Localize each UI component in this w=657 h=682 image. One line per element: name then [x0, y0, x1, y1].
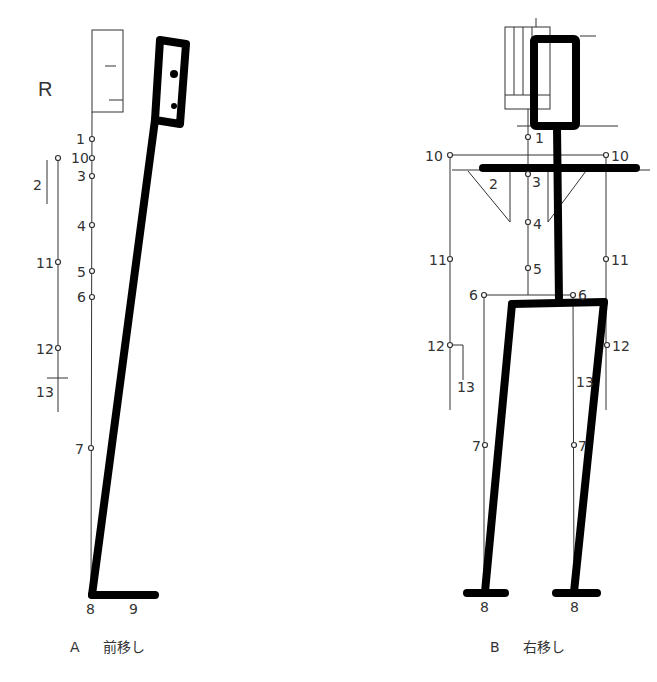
label-right-10: 10 — [611, 148, 629, 164]
point-3 — [526, 172, 531, 177]
label-2: 2 — [33, 177, 42, 193]
point-10 — [90, 156, 95, 161]
point-left-10 — [448, 153, 453, 158]
posture-diagram: R 1 10 3 4 5 6 7 8 9 — [0, 0, 657, 682]
label-left-8: 8 — [480, 599, 489, 615]
label-4: 4 — [533, 216, 542, 232]
figure-a: R 1 10 3 4 5 6 7 8 9 — [33, 30, 186, 655]
label-2: 2 — [489, 176, 498, 192]
point-right-11 — [604, 257, 609, 262]
plumb-line — [91, 112, 92, 595]
point-right-7 — [572, 443, 577, 448]
label-left-13: 13 — [457, 379, 475, 395]
caption-a-letter: A — [70, 639, 80, 655]
label-5: 5 — [77, 264, 86, 280]
label-left-10: 10 — [425, 148, 443, 164]
point-5 — [526, 266, 531, 271]
point-right-12 — [605, 343, 610, 348]
point-12 — [56, 346, 61, 351]
label-left-6: 6 — [469, 287, 478, 303]
label-3: 3 — [532, 174, 541, 190]
label-left-7: 7 — [472, 438, 481, 454]
label-3: 3 — [77, 168, 86, 184]
label-6: 6 — [77, 289, 86, 305]
left-segment-13 — [450, 345, 463, 380]
label-right-12: 12 — [612, 338, 630, 354]
point-1 — [90, 137, 95, 142]
point-1 — [526, 135, 531, 140]
head-outline — [534, 39, 576, 126]
label-right-6: 6 — [578, 287, 587, 303]
caption-b-text: 右移し — [523, 639, 565, 655]
point-6 — [90, 295, 95, 300]
hip-bar — [512, 302, 604, 304]
point-11 — [56, 260, 61, 265]
label-1: 1 — [535, 130, 544, 146]
label-8: 8 — [86, 601, 95, 617]
label-5: 5 — [533, 261, 542, 277]
point-left-12 — [448, 343, 453, 348]
point-3 — [90, 174, 95, 179]
label-1: 1 — [76, 131, 85, 147]
caption-b-letter: B — [490, 639, 500, 655]
point-5 — [90, 269, 95, 274]
label-9: 9 — [129, 601, 138, 617]
point-arm-10 — [56, 156, 61, 161]
point-left-6 — [482, 293, 487, 298]
label-right-13: 13 — [576, 374, 594, 390]
label-11: 11 — [36, 255, 54, 271]
label-left-11: 11 — [429, 252, 447, 268]
point-7 — [89, 446, 94, 451]
eye-dot — [170, 70, 178, 78]
point-left-7 — [483, 443, 488, 448]
label-7: 7 — [75, 441, 84, 457]
figure-b: 1 3 4 5 2 10 11 12 6 7 8 13 10 11 12 6 7… — [425, 18, 650, 655]
label-13: 13 — [36, 384, 54, 400]
label-right-8: 8 — [570, 599, 579, 615]
label-right-11: 11 — [611, 252, 629, 268]
point-left-11 — [448, 257, 453, 262]
label-left-12: 12 — [427, 338, 445, 354]
point-right-6 — [571, 293, 576, 298]
body-line — [92, 120, 155, 595]
caption-a-text: 前移し — [103, 639, 145, 655]
label-right-7: 7 — [578, 438, 587, 454]
spine-line — [557, 126, 559, 302]
left-leg — [485, 304, 512, 592]
point-4 — [90, 223, 95, 228]
mouth-dot — [171, 103, 177, 109]
label-12: 12 — [36, 341, 54, 357]
point-right-10 — [604, 153, 609, 158]
label-4: 4 — [77, 218, 86, 234]
side-label: R — [38, 78, 52, 100]
label-10: 10 — [71, 150, 89, 166]
head-outline — [155, 40, 186, 124]
point-4 — [526, 220, 531, 225]
